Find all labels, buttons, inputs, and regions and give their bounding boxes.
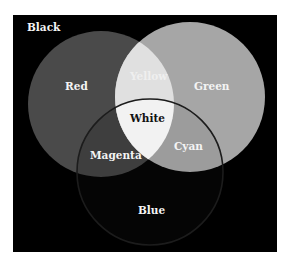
venn-diagram-panel: Black Red Yellow Green White Magenta Cya… (13, 15, 277, 252)
label-magenta: Magenta (90, 149, 142, 161)
label-cyan: Cyan (174, 140, 203, 152)
label-black: Black (27, 21, 61, 33)
venn-diagram: Black Red Yellow Green White Magenta Cya… (13, 15, 277, 252)
label-blue: Blue (138, 204, 165, 216)
label-green: Green (194, 80, 230, 92)
label-red: Red (65, 80, 88, 92)
label-white: White (129, 112, 165, 124)
label-yellow: Yellow (129, 70, 168, 82)
